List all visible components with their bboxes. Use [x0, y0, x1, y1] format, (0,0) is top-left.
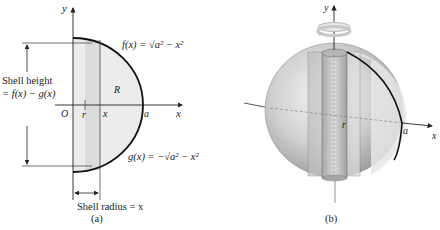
r-label: r: [82, 109, 86, 120]
inner-cylinder: [322, 52, 347, 178]
caption-a: (a): [91, 213, 103, 225]
region-label: R: [113, 84, 120, 95]
inner-cylinder-top: [322, 49, 347, 57]
shell-height-label: Shell height: [2, 75, 53, 86]
diagram-canvas: y x O r x a R f(x) = √a² − x² g(x) = −√a…: [0, 0, 440, 230]
rotation-arrow-icon: [316, 23, 350, 37]
b-x-axis-label: x: [431, 130, 437, 141]
g-label: g(x) = −√a² − x²: [128, 151, 199, 163]
b-y-axis-label: y: [323, 2, 329, 13]
caption-b: (b): [325, 213, 338, 225]
x-axis-label: x: [175, 107, 181, 119]
origin-label: O: [61, 108, 68, 119]
inner-cylinder-bottom: [322, 175, 347, 181]
panel-b: y x r a (b): [244, 2, 437, 225]
b-a-label: a: [403, 125, 408, 136]
panel-a: y x O r x a R f(x) = √a² − x² g(x) = −√a…: [2, 2, 199, 225]
b-r-label: r: [342, 119, 346, 130]
a-label: a: [144, 108, 149, 119]
y-axis-label: y: [61, 2, 67, 14]
shell-height-formula: = f(x) − g(x): [2, 88, 56, 100]
shell-radius-label: Shell radius = x: [77, 201, 144, 212]
f-label: f(x) = √a² − x²: [122, 39, 184, 51]
x-tick-label: x: [102, 108, 108, 119]
